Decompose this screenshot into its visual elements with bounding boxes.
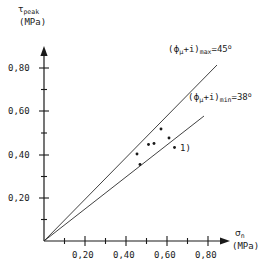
data-point	[168, 137, 171, 140]
max-value: =45	[212, 44, 228, 54]
envelope-line-min	[44, 116, 204, 241]
max-degree-symbol: o	[228, 43, 232, 51]
min-degree-symbol: o	[248, 91, 252, 99]
max-qualifier: max	[200, 48, 212, 56]
min-plus-i: +i)	[204, 92, 220, 102]
x-axis-subscript: n	[241, 232, 245, 240]
data-point	[136, 153, 139, 156]
y-tick-label-040: 0,40	[8, 150, 30, 160]
data-point	[173, 146, 176, 149]
x-tick-label-040: 0,40	[113, 250, 135, 260]
y-axis-subscript: peak	[23, 8, 39, 16]
y-tick-label-060: 0,60	[8, 106, 30, 116]
footnote-marker-1: 1)	[180, 143, 191, 153]
annotation-min-envelope: (ϕμ+i)min=38o	[188, 90, 252, 105]
max-plus-i: +i)	[184, 44, 200, 54]
x-tick-label-080: 0,80	[195, 250, 217, 260]
x-axis-title: σn (MPa)	[232, 228, 259, 251]
x-axis	[44, 237, 230, 244]
x-tick-label-020: 0,20	[72, 250, 94, 260]
scatter-plot-figure: τpeak (MPa) σn (MPa) 0,80 0,60 0,40 0,20…	[0, 0, 279, 276]
scatter-points	[136, 128, 176, 166]
data-point	[153, 142, 156, 145]
data-point	[139, 163, 142, 166]
y-tick-label-020: 0,20	[8, 193, 30, 203]
y-axis-title: τpeak (MPa)	[18, 4, 46, 27]
annotation-max-envelope: (ϕμ+i)max=45o	[168, 42, 232, 57]
x-axis-units: (MPa)	[232, 241, 259, 251]
min-value: =38	[232, 92, 248, 102]
x-tick-label-060: 0,60	[154, 250, 176, 260]
y-axis	[40, 46, 47, 241]
y-tick-label-080: 0,80	[8, 63, 30, 73]
min-qualifier: min	[220, 96, 232, 104]
y-axis-units: (MPa)	[19, 17, 46, 27]
data-point	[147, 143, 150, 146]
data-point	[160, 128, 163, 131]
